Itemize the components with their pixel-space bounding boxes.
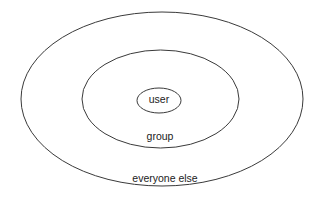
user-label: user bbox=[149, 93, 170, 105]
everyone-else-label: everyone else bbox=[132, 172, 198, 184]
ring-user: user bbox=[137, 88, 181, 113]
group-label: group bbox=[147, 130, 174, 142]
nested-ellipses-diagram: everyone else group user bbox=[0, 0, 323, 197]
